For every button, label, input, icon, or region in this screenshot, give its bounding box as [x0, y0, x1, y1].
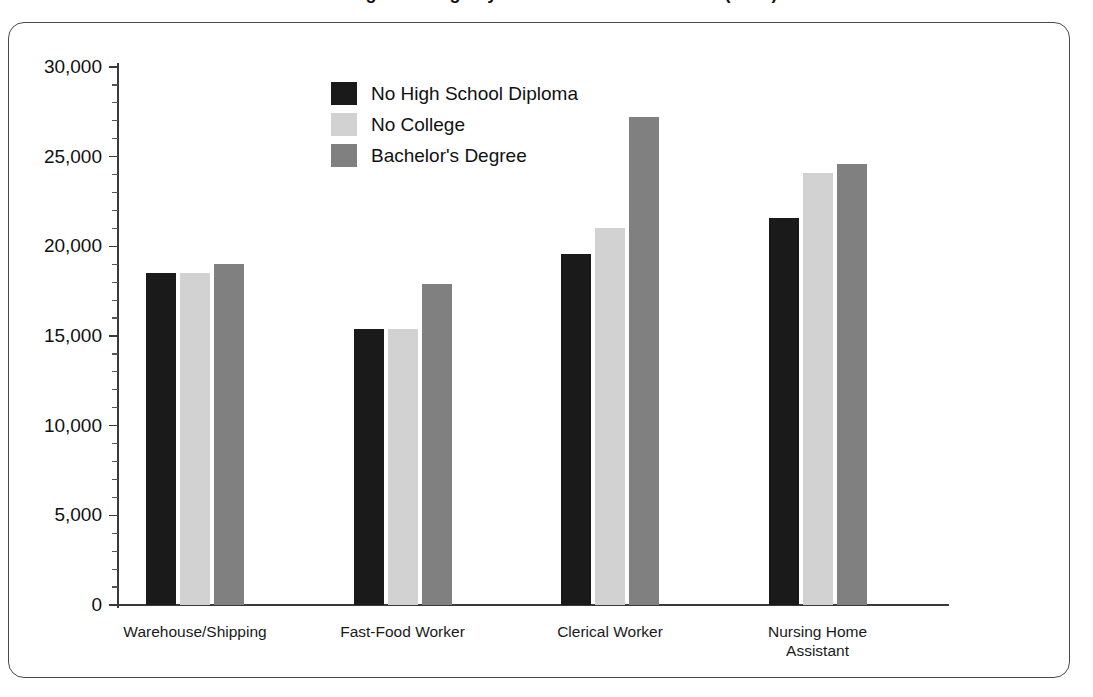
- y-axis-tick-minor: [112, 192, 118, 193]
- x-axis-category-label: Clerical Worker: [500, 622, 720, 641]
- bar[interactable]: [422, 284, 452, 605]
- y-axis-tick-minor: [112, 84, 118, 85]
- y-axis-tick-minor: [112, 371, 118, 372]
- y-axis-tick-major: [109, 335, 118, 336]
- bar[interactable]: [595, 228, 625, 605]
- bar[interactable]: [214, 264, 244, 605]
- chart-legend: No High School DiplomaNo CollegeBachelor…: [331, 78, 631, 171]
- legend-item[interactable]: No College: [331, 109, 631, 140]
- y-axis-tick-minor: [112, 264, 118, 265]
- bar[interactable]: [803, 173, 833, 605]
- y-axis-tick-label: 30,000: [6, 56, 102, 78]
- y-axis-tick-label: 15,000: [6, 325, 102, 347]
- legend-label: No College: [371, 114, 465, 136]
- y-axis-tick-label: 20,000: [6, 235, 102, 257]
- bar[interactable]: [180, 273, 210, 605]
- bar[interactable]: [629, 117, 659, 605]
- y-axis-tick-major: [109, 515, 118, 516]
- y-axis-tick-label: 10,000: [6, 415, 102, 437]
- y-axis-tick-minor: [112, 228, 118, 229]
- y-axis-tick-minor: [112, 138, 118, 139]
- y-axis-tick-minor: [112, 407, 118, 408]
- y-axis-tick-major: [109, 604, 118, 605]
- legend-item[interactable]: Bachelor's Degree: [331, 140, 631, 171]
- y-axis-tick-minor: [112, 461, 118, 462]
- y-axis-tick-minor: [112, 210, 118, 211]
- y-axis-tick-minor: [112, 353, 118, 354]
- y-axis-tick-minor: [112, 282, 118, 283]
- y-axis-tick-label: 5,000: [6, 504, 102, 526]
- y-axis-tick-major: [109, 156, 118, 157]
- y-axis-tick-major: [109, 246, 118, 247]
- bar[interactable]: [146, 273, 176, 605]
- legend-swatch-icon: [331, 113, 357, 136]
- y-axis-tick-minor: [112, 174, 118, 175]
- y-axis-tick-minor: [112, 443, 118, 444]
- x-axis-category-label: Fast-Food Worker: [293, 622, 513, 641]
- bar-group: [769, 67, 867, 605]
- y-axis-tick-major: [109, 66, 118, 67]
- x-axis-category-label: Nursing Home Assistant: [708, 622, 928, 660]
- legend-swatch-icon: [331, 144, 357, 167]
- bar[interactable]: [769, 218, 799, 605]
- bar-group: [146, 67, 244, 605]
- y-axis-tick-minor: [112, 317, 118, 318]
- legend-label: No High School Diploma: [371, 83, 578, 105]
- y-axis-tick-minor: [112, 389, 118, 390]
- y-axis-tick-minor: [112, 120, 118, 121]
- bar[interactable]: [388, 329, 418, 605]
- y-axis-tick-minor: [112, 497, 118, 498]
- bar[interactable]: [354, 329, 384, 605]
- y-axis-tick-minor: [112, 300, 118, 301]
- y-axis-tick-minor: [112, 569, 118, 570]
- y-axis-tick-minor: [112, 586, 118, 587]
- bar[interactable]: [837, 164, 867, 605]
- y-axis-tick-label: 25,000: [6, 146, 102, 168]
- bar[interactable]: [561, 254, 591, 605]
- y-axis-tick-label: 0: [6, 594, 102, 616]
- y-axis-labels: 05,00010,00015,00020,00025,00030,000: [0, 0, 102, 697]
- y-axis-tick-minor: [112, 102, 118, 103]
- y-axis-tick-minor: [112, 479, 118, 480]
- y-axis-tick-minor: [112, 551, 118, 552]
- legend-item[interactable]: No High School Diploma: [331, 78, 631, 109]
- legend-label: Bachelor's Degree: [371, 145, 527, 167]
- y-axis-tick-minor: [112, 533, 118, 534]
- chart-title: Average Earnings by Job and Education Le…: [0, 0, 1093, 5]
- x-axis-category-label: Warehouse/Shipping: [85, 622, 305, 641]
- y-axis-tick-major: [109, 425, 118, 426]
- legend-swatch-icon: [331, 82, 357, 105]
